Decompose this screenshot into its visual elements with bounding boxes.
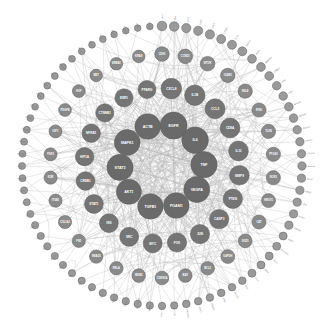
network-node[interactable]: SELE [238, 84, 252, 98]
network-node[interactable]: SHH [248, 269, 260, 282]
network-node[interactable]: CTNNB1 [96, 104, 114, 122]
network-node[interactable]: CCL2 [205, 99, 225, 119]
node-circle[interactable] [228, 40, 237, 49]
node-circle[interactable] [257, 63, 266, 72]
network-node[interactable]: GAPDH [221, 250, 235, 264]
network-node[interactable]: VEGFA [184, 177, 210, 203]
network-node[interactable]: HMGB1 [17, 175, 26, 182]
network-node[interactable]: GLI1 [239, 277, 250, 290]
node-circle[interactable] [272, 81, 281, 90]
network-node[interactable]: MDM2 [132, 269, 146, 283]
node-circle[interactable] [217, 289, 225, 297]
network-node[interactable]: MAP1LC3B [134, 297, 141, 309]
network-node[interactable]: FGF2 [44, 148, 57, 161]
network-node[interactable]: RB1 [169, 15, 179, 31]
network-node[interactable]: CDH1 [155, 47, 170, 62]
network-node[interactable]: CDK4 [205, 22, 215, 39]
network-node[interactable]: MYC [143, 234, 162, 253]
network-node[interactable]: ICAM1 [221, 68, 235, 82]
network-node[interactable]: PRDX1 [59, 261, 67, 269]
network-node[interactable]: DDX58 [147, 22, 154, 30]
network-node[interactable]: STING1 [59, 63, 67, 71]
network-node[interactable]: STAT3 [107, 154, 133, 180]
network-node[interactable]: KEAP1 [99, 289, 106, 298]
network-node[interactable]: CGAS [68, 54, 75, 62]
network-node[interactable]: PPARG [138, 81, 156, 99]
network-node[interactable]: BRCA2 [289, 112, 307, 122]
node-circle[interactable] [171, 302, 178, 309]
network-node[interactable]: XRCC1 [297, 150, 315, 158]
node-circle[interactable] [265, 72, 274, 81]
network-node[interactable]: RAD51 [293, 125, 311, 134]
network-node[interactable]: ERCC1 [298, 162, 316, 170]
node-circle[interactable] [285, 221, 293, 229]
network-node[interactable]: NFE2L2 [110, 294, 117, 303]
network-node[interactable]: CREB1 [76, 172, 95, 191]
network-node[interactable]: TRAF6 [22, 126, 31, 133]
network-node[interactable]: TP53 [157, 14, 167, 31]
node-circle[interactable] [228, 283, 236, 291]
network-node[interactable]: SMAD3 [90, 250, 103, 263]
network-node[interactable]: AXIN1 [290, 210, 306, 219]
network-node[interactable]: BECN1 [146, 302, 153, 311]
network-node[interactable]: MMP9 [230, 166, 250, 186]
network-node[interactable]: ISG15 [89, 40, 96, 48]
network-node[interactable]: HES1 [257, 261, 270, 274]
node-circle[interactable] [248, 54, 257, 63]
node-circle[interactable] [257, 261, 265, 269]
network-node[interactable]: BCL2 [201, 262, 215, 276]
network-node[interactable]: HIF1A [75, 148, 93, 166]
network-node[interactable]: STAT1 [85, 195, 104, 214]
network-node[interactable]: ESR1 [115, 89, 133, 107]
network-node[interactable]: TGFB1 [138, 194, 163, 219]
node-circle[interactable] [297, 174, 305, 182]
node-circle[interactable] [239, 277, 247, 285]
network-node[interactable]: CAT [252, 215, 266, 229]
network-node[interactable]: PARP1 [296, 138, 314, 146]
network-node[interactable]: FTH1 [22, 199, 31, 206]
network-node[interactable]: GCLC [42, 243, 50, 250]
network-node[interactable]: SLC7A11 [36, 232, 46, 239]
network-node[interactable]: ATM [272, 79, 285, 90]
network-node[interactable]: BRCA1 [285, 100, 302, 111]
network-node[interactable]: FOS [167, 233, 186, 252]
network-node[interactable]: CDKN1A [155, 271, 169, 285]
network-node[interactable]: CD8A [220, 118, 240, 138]
network-node[interactable]: PLK1 [228, 34, 240, 50]
network-node[interactable]: ATR [279, 90, 293, 100]
network-node[interactable]: SIRT1 [194, 297, 202, 313]
network-node[interactable]: KDR [44, 171, 57, 184]
network-node[interactable]: SRC [120, 227, 139, 246]
node-circle[interactable] [279, 232, 287, 240]
node-circle[interactable] [293, 126, 301, 134]
network-node[interactable]: PTEN [223, 189, 242, 208]
network-node[interactable]: ACTB [135, 114, 161, 140]
network-node[interactable]: IL10 [229, 141, 249, 161]
node-circle[interactable] [296, 138, 304, 146]
network-node[interactable]: TLR4 [261, 124, 275, 138]
node-circle[interactable] [194, 26, 203, 35]
network-node[interactable]: BUB1 [248, 48, 261, 63]
network-node[interactable]: IKBKB [25, 115, 33, 122]
network-node[interactable]: E2F1 [182, 16, 191, 33]
network-node[interactable]: GPX4 [25, 210, 34, 217]
node-circle[interactable] [297, 150, 305, 158]
node-circle[interactable] [194, 297, 202, 305]
network-node[interactable]: PTCH1 [228, 283, 239, 299]
node-circle[interactable] [290, 210, 298, 218]
network-node[interactable]: GPX1 [88, 284, 95, 293]
network-node[interactable]: MET [90, 69, 103, 82]
network-node[interactable]: AKT1 [116, 179, 141, 204]
network-node[interactable]: TFRC [19, 187, 28, 194]
network-node[interactable]: SQSTM1 [122, 297, 129, 307]
network-node[interactable]: IRAK4 [19, 138, 28, 145]
node-circle[interactable] [265, 252, 273, 260]
network-node[interactable]: TXN [68, 270, 76, 278]
network-node[interactable]: SOD1 [238, 234, 252, 248]
network-node[interactable]: JAG1 [265, 252, 279, 264]
network-node[interactable]: CCND1 [178, 49, 193, 64]
network-node[interactable]: HGF [72, 85, 85, 98]
network-node[interactable]: APC [293, 198, 308, 206]
network-node[interactable]: IGF1 [49, 125, 62, 138]
node-circle[interactable] [296, 186, 304, 194]
